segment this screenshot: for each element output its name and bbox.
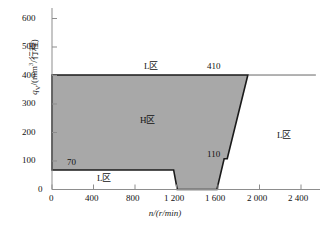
y-axis-title-mid: /(mm <box>29 66 39 86</box>
x-tick-label-400: 400 <box>85 194 99 203</box>
x-tick-label-800: 800 <box>126 194 140 203</box>
y-axis-title-sup: 3 <box>27 63 34 66</box>
x-tick-label-0: 0 <box>49 194 54 203</box>
x-axis-title: n/(r/min) <box>0 208 330 218</box>
region-label-upper-L: L区 <box>144 62 159 71</box>
chart-figure: 600 500 400 300 200 100 0 0 400 800 1 20… <box>0 0 330 227</box>
y-tick-label-100: 100 <box>22 156 36 165</box>
y-tick-label-200: 200 <box>22 128 36 137</box>
x-axis-ticks <box>52 185 301 190</box>
x-tick-label-2400: 2 400 <box>288 194 308 203</box>
y-axis-title-sub: V <box>34 85 41 90</box>
region-label-center-H: H区 <box>140 116 156 125</box>
data-label-110: 110 <box>207 150 220 159</box>
operating-envelope-polygon <box>52 75 248 189</box>
x-tick-label-2000: 2 000 <box>247 194 267 203</box>
y-axis-title: qV/(mm3/行程) <box>27 7 41 127</box>
region-label-lower-L: L区 <box>97 174 112 183</box>
y-axis-title-var: q <box>29 90 39 95</box>
region-label-right-L: L区 <box>277 131 292 140</box>
y-axis-title-end: /行程) <box>29 39 39 63</box>
x-axis-title-rest: /(r/min) <box>153 208 181 218</box>
data-label-70: 70 <box>67 158 76 167</box>
y-tick-label-0: 0 <box>38 185 43 194</box>
x-tick-label-1600: 1 600 <box>205 194 225 203</box>
x-tick-label-1200: 1 200 <box>164 194 184 203</box>
data-label-410: 410 <box>207 62 221 71</box>
